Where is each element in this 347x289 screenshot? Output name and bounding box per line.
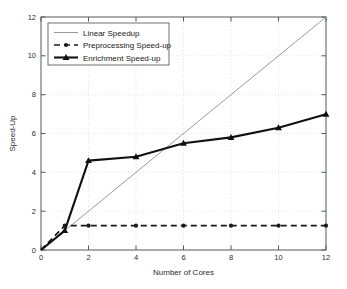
speedup-chart-figure: 0 2 4 6 8 10 12 0 2 4 6 8 10 12 Number o…: [0, 0, 347, 289]
legend-marker-circle-icon: [64, 43, 68, 47]
y-tick-labels: 0 2 4 6 8 10 12: [28, 13, 36, 255]
x-tick-label: 0: [39, 253, 43, 262]
y-tick-label: 12: [28, 13, 36, 22]
y-tick-label: 0: [32, 246, 36, 255]
y-axis-title: Speed-Up: [8, 115, 17, 152]
chart-canvas: 0 2 4 6 8 10 12 0 2 4 6 8 10 12 Number o…: [0, 0, 347, 289]
legend-label-enrichment: Enrichment Speed-up: [83, 54, 161, 63]
legend-label-preprocessing: Preprocessing Speed-up: [83, 41, 172, 50]
x-tick-labels: 0 2 4 6 8 10 12: [39, 253, 330, 262]
y-tick-label: 2: [32, 207, 36, 216]
x-tick-label: 8: [229, 253, 233, 262]
x-tick-label: 4: [134, 253, 138, 262]
legend-label-linear: Linear Speedup: [83, 29, 140, 38]
x-tick-label: 10: [274, 253, 282, 262]
x-tick-label: 6: [181, 253, 185, 262]
x-tick-label: 2: [86, 253, 90, 262]
y-tick-label: 6: [32, 129, 36, 138]
chart-legend: Linear Speedup Preprocessing Speed-up En…: [48, 23, 172, 65]
x-tick-label: 12: [322, 253, 330, 262]
y-tick-label: 8: [32, 90, 36, 99]
x-axis-title: Number of Cores: [153, 268, 214, 277]
y-tick-label: 10: [28, 51, 36, 60]
y-tick-label: 4: [32, 168, 36, 177]
